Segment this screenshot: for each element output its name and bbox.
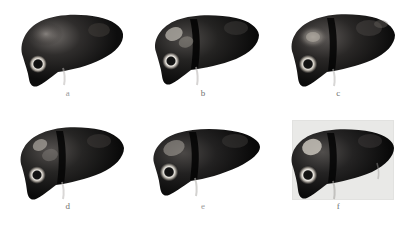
panel-label-a: a — [0, 88, 135, 99]
ligament-stalk-d — [62, 182, 64, 199]
ligament-stalk-e — [195, 178, 197, 196]
ligament-stalk-a — [63, 68, 65, 85]
liver-illustration-c — [277, 2, 401, 94]
panel-label-f: f — [271, 201, 406, 212]
figure-panel-grid: a — [0, 0, 406, 226]
vessel-stalk-f — [377, 163, 379, 179]
ligament-stalk-f — [333, 181, 335, 199]
liver-illustration-f — [277, 115, 401, 207]
panel-f-plate — [271, 113, 406, 208]
liver-right-lobe-sheen-f — [358, 134, 382, 148]
figure-panel-a: a — [0, 0, 135, 113]
panel-e-plate — [135, 113, 270, 208]
liver-illustration-a — [6, 2, 130, 94]
panel-label-e: e — [135, 201, 270, 212]
ring-lesion-b — [162, 52, 180, 70]
panel-d-plate — [0, 113, 135, 208]
panel-label-c: c — [271, 88, 406, 99]
figure-panel-d: d — [0, 113, 135, 226]
panel-label-b: b — [135, 88, 270, 99]
liver-right-lobe-sheen-e — [222, 134, 248, 148]
figure-panel-c: c — [271, 0, 406, 113]
liver-illustration-d — [6, 115, 130, 207]
ring-lesion-d — [28, 166, 46, 184]
liver-right-lobe-sheen-b — [224, 21, 248, 35]
figure-panel-e: e — [135, 113, 270, 226]
liver-right-lobe-sheen-d — [87, 134, 111, 148]
liver-illustration-b — [141, 2, 265, 94]
panel-label-d: d — [0, 201, 135, 212]
figure-panel-f: f — [271, 113, 406, 226]
ligament-stalk-b — [196, 67, 198, 85]
panel-a-plate — [0, 0, 135, 95]
panel-b-plate — [135, 0, 270, 95]
ring-lesion-f — [298, 166, 317, 185]
lesion-core-c — [306, 32, 320, 42]
liver-right-lobe-sheen-a — [88, 23, 110, 37]
lesion-right-c — [374, 20, 388, 28]
ring-lesion-e — [160, 163, 179, 182]
panel-c-plate — [271, 0, 406, 95]
ring-lesion-c — [298, 55, 317, 74]
figure-panel-b: b — [135, 0, 270, 113]
liver-illustration-e — [141, 115, 265, 207]
ligament-stalk-c — [333, 69, 335, 86]
liver-highlight-a — [29, 22, 63, 46]
ring-lesion-a — [29, 55, 47, 73]
